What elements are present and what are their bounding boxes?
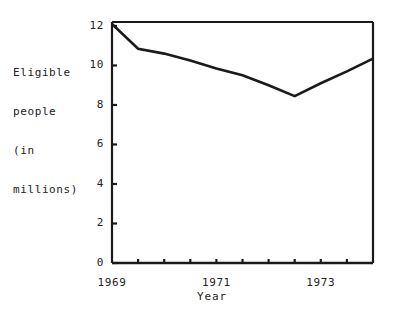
plot-frame	[112, 22, 373, 263]
y-tick-label: 4	[82, 177, 104, 190]
line-chart: Eligible people (in millions) 024681012 …	[0, 0, 398, 317]
x-tick-label: 1973	[300, 276, 342, 289]
y-tick-label: 6	[82, 137, 104, 150]
chart-canvas	[0, 0, 398, 317]
y-tick-label: 12	[82, 19, 104, 32]
y-tick-label: 10	[82, 58, 104, 71]
y-tick-label: 2	[82, 216, 104, 229]
data-series-line	[112, 24, 373, 96]
y-tick-label: 8	[82, 98, 104, 111]
x-tick-label: 1971	[195, 276, 237, 289]
x-tick-label: 1969	[91, 276, 133, 289]
y-tick-label: 0	[82, 256, 104, 269]
x-axis-title: Year	[197, 290, 227, 303]
